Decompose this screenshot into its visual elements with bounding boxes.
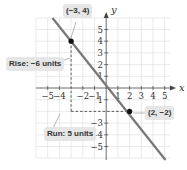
point-2-neg2 <box>127 109 132 114</box>
point-neg3-4 <box>69 39 74 44</box>
x-axis-label: x <box>179 82 185 93</box>
coordinate-plane: −5 −4 −2 −1 1 2 3 4 5 5 4 3 2 1 1 −3 −4 … <box>0 0 187 170</box>
y-axis-label: y <box>110 4 117 15</box>
svg-text:−5: −5 <box>90 142 103 152</box>
svg-text:3: 3 <box>98 48 103 58</box>
svg-text:−2: −2 <box>77 91 90 101</box>
svg-text:4: 4 <box>150 91 155 101</box>
svg-text:−5: −5 <box>41 91 54 101</box>
point-label-neg3-4: (−3, 4) <box>63 4 92 18</box>
svg-text:1: 1 <box>98 95 103 105</box>
rise-label: Rise: −6 units <box>6 57 64 71</box>
x-axis-arrow-icon <box>170 86 176 91</box>
svg-text:2: 2 <box>127 91 132 101</box>
run-label: Run: 5 units <box>44 127 96 141</box>
y-axis-arrow-icon <box>104 12 109 18</box>
svg-text:2: 2 <box>98 60 103 70</box>
point-label-2-neg2: (2, −2) <box>145 106 174 120</box>
svg-text:5: 5 <box>98 25 103 35</box>
svg-text:5: 5 <box>162 91 167 101</box>
svg-text:−4: −4 <box>53 91 66 101</box>
svg-text:4: 4 <box>98 36 103 46</box>
svg-text:3: 3 <box>139 91 144 101</box>
